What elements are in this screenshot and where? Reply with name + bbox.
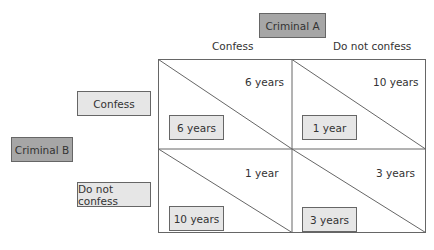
col-strategy-confess: Confess [212,40,254,52]
payoff-b-nc: 10 years [169,206,224,231]
player-a-label: Criminal A [259,13,326,38]
payoff-b-cc: 6 years [169,115,224,140]
payoff-a-nn: 3 years [376,167,415,179]
row-strategy-confess: Confess [77,91,151,116]
payoff-a-cc: 6 years [245,76,284,88]
payoff-a-cn: 10 years [373,76,419,88]
row-strategy-do-not-confess: Do not confess [77,182,151,207]
player-b-label: Criminal B [11,137,73,162]
payoff-b-nn: 3 years [302,207,357,232]
payoff-b-cn: 1 year [302,115,357,140]
col-strategy-do-not-confess: Do not confess [333,40,411,52]
payoff-a-nc: 1 year [245,167,278,179]
